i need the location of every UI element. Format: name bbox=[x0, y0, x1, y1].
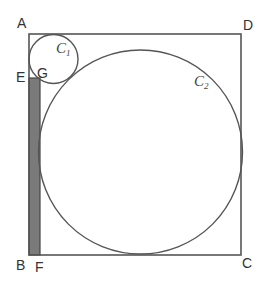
shaded-rectangle bbox=[29, 78, 40, 255]
label-c2: C2 bbox=[194, 73, 209, 91]
label-d: D bbox=[243, 17, 253, 33]
label-a: A bbox=[17, 15, 27, 31]
label-c: C bbox=[242, 255, 252, 271]
label-b: B bbox=[16, 257, 25, 273]
label-g: G bbox=[37, 65, 48, 81]
geometry-diagram: A D E G B F C C1 C2 bbox=[0, 0, 268, 285]
label-f: F bbox=[35, 259, 44, 275]
label-c1: C1 bbox=[56, 40, 71, 58]
square-abcd bbox=[29, 34, 241, 255]
label-e: E bbox=[16, 69, 25, 85]
circle-c2 bbox=[39, 50, 243, 254]
